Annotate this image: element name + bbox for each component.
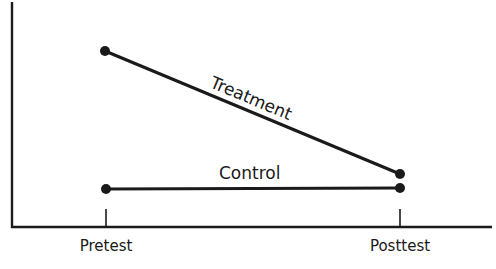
control-label: Control — [219, 163, 280, 183]
x-label-posttest: Posttest — [370, 237, 430, 255]
chart: Treatment Control Pretest Posttest — [0, 0, 496, 269]
control-line — [105, 188, 400, 189]
control-point-pretest — [101, 184, 111, 194]
control-point-posttest — [395, 183, 405, 193]
series-control — [101, 183, 405, 194]
treatment-point-posttest — [395, 169, 405, 179]
x-label-pretest: Pretest — [80, 237, 133, 255]
treatment-point-pretest — [100, 46, 110, 56]
treatment-line — [105, 51, 400, 174]
series-treatment — [100, 46, 405, 179]
